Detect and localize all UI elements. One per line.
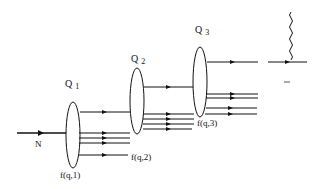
stage-1-title: Q1 bbox=[65, 78, 79, 91]
stage-2-name: Q bbox=[131, 53, 138, 64]
stage-3-name: Q bbox=[195, 24, 202, 35]
stage-3-outputs bbox=[205, 60, 258, 116]
stage-3-title: Q3 bbox=[195, 24, 209, 37]
stage-3-output-label: f(q,3) bbox=[197, 118, 217, 128]
stage-2-outputs bbox=[143, 85, 194, 131]
cascade-diagram bbox=[0, 0, 322, 189]
input-label: N bbox=[35, 139, 42, 149]
final-emission bbox=[268, 12, 307, 64]
input-arrow bbox=[17, 130, 66, 136]
stage-1-name: Q bbox=[65, 78, 72, 89]
stage-1-ellipse bbox=[66, 102, 80, 168]
stage-1-outputs bbox=[79, 110, 130, 157]
stage-2-output-label: f(q,2) bbox=[131, 152, 151, 162]
stage-2-title: Q2 bbox=[131, 53, 145, 66]
stage-3-ellipse bbox=[193, 47, 207, 117]
stage-2-index: 2 bbox=[141, 57, 145, 66]
stage-2-ellipse bbox=[130, 68, 144, 134]
stage-1-output-label: f(q,1) bbox=[60, 170, 80, 180]
stage-3-index: 3 bbox=[205, 28, 209, 37]
stage-1-index: 1 bbox=[75, 82, 79, 91]
